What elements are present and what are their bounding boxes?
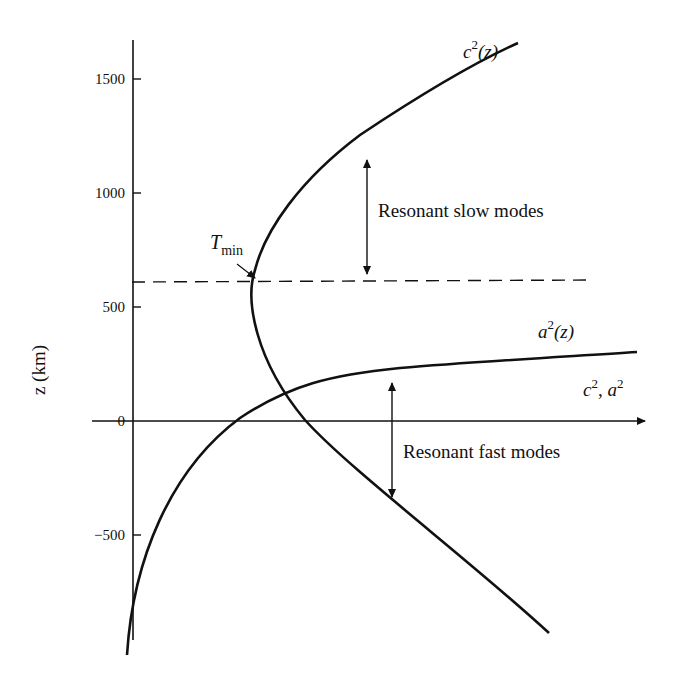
y-tick-label: 1000 <box>95 185 125 201</box>
y-tick-label: 500 <box>103 299 126 315</box>
c2-curve <box>252 43 549 633</box>
chart-figure: 1500 1000 500 0 −500 z (km) c2, a2 Tmin … <box>0 0 677 693</box>
y-tick-label: −500 <box>94 527 125 543</box>
slow-modes-label: Resonant slow modes <box>378 200 544 221</box>
tmin-annotation: Tmin <box>132 231 593 282</box>
fast-modes-annotation: Resonant fast modes <box>392 383 560 497</box>
tmin-dashed-line <box>132 280 593 282</box>
y-tick-label: 1500 <box>95 71 125 87</box>
y-axis: 1500 1000 500 0 −500 z (km) <box>28 40 141 640</box>
a2-curve <box>127 352 637 655</box>
tmin-label: Tmin <box>210 231 243 258</box>
fast-modes-label: Resonant fast modes <box>403 441 560 462</box>
a2-curve-label: a2(z) <box>538 317 574 343</box>
x-axis: c2, a2 <box>92 376 645 421</box>
y-axis-label: z (km) <box>28 345 50 395</box>
slow-modes-annotation: Resonant slow modes <box>367 160 544 274</box>
c2-curve-label: c2(z) <box>463 37 498 63</box>
x-axis-label: c2, a2 <box>583 376 623 400</box>
